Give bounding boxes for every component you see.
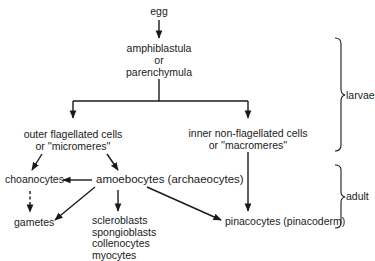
arrow-amoebocytes-to-pinacocytes <box>147 187 221 220</box>
stage-label-adult: adult <box>346 191 369 203</box>
node-larva: amphiblastula or parenchymula <box>126 42 192 78</box>
stage-label-larvae: larvae <box>346 90 375 102</box>
node-myocytes: myocytes <box>92 250 156 261</box>
arrow-outer-to-amoebocytes <box>107 154 118 170</box>
node-inner-line1: inner non-flagellated cells <box>188 127 307 139</box>
node-scleroblasts: scleroblasts <box>92 215 156 227</box>
node-larva-line1: amphiblastula <box>126 42 192 54</box>
node-pinacocytes: pinacocytes (pinacoderm) <box>225 216 345 228</box>
node-inner-non-flagellated: inner non-flagellated cells or ''macrome… <box>188 127 307 151</box>
arrow-amoebocytes-to-gametes <box>55 187 95 220</box>
node-outer-line2: or ''micromeres'' <box>24 140 123 152</box>
brace-larvae <box>335 38 345 151</box>
node-gametes: gametes <box>14 217 54 229</box>
node-choanocytes: choanocytes <box>5 174 64 186</box>
node-collenocytes: collenocytes <box>92 238 156 250</box>
node-larva-or: or <box>126 54 192 66</box>
node-inner-line2: or ''macromeres'' <box>188 139 307 151</box>
node-outer-flagellated: outer flagellated cells or ''micromeres'… <box>24 128 123 152</box>
node-outer-line1: outer flagellated cells <box>24 128 123 140</box>
node-derived-cells: scleroblasts spongioblasts collenocytes … <box>92 215 156 261</box>
node-larva-line2: parenchymula <box>126 66 192 78</box>
node-amoebocytes: amoebocytes (archaeocytes) <box>96 172 244 186</box>
arrow-outer-to-choanocytes <box>32 154 42 170</box>
node-egg: egg <box>150 6 168 18</box>
